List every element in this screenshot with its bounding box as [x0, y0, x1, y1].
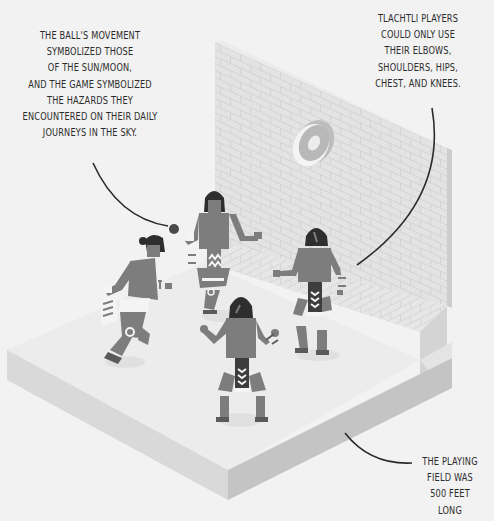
callout-ball-symbolism: THE BALL'S MOVEMENT SYMBOLIZED THOSE OF …	[0, 27, 180, 140]
callout-line-text: SHOULDERS, HIPS,	[347, 59, 488, 75]
callout-line-text: AND THE GAME SYMBOLIZED	[0, 76, 180, 92]
callout-line-text: THEIR ELBOWS,	[347, 42, 488, 58]
callout-line-ball	[93, 163, 168, 226]
callout-line-text: THE HAZARDS THEY	[0, 92, 180, 108]
callout-line-text: FIELD WAS	[407, 469, 493, 485]
callout-field-length: THE PLAYING FIELD WAS 500 FEET LONG	[407, 453, 493, 518]
callout-line-text: 500 FEET	[407, 485, 493, 501]
callout-line-text: LONG	[407, 502, 493, 518]
callout-line-text: JOURNEYS IN THE SKY.	[0, 124, 180, 140]
callout-line-text: THE BALL'S MOVEMENT	[0, 27, 180, 43]
callout-line-text: ENCOUNTERED ON THEIR DAILY	[0, 108, 180, 124]
callout-line-field	[345, 433, 412, 463]
callout-line-text: CHEST, AND KNEES.	[347, 75, 488, 91]
callout-line-text: COULD ONLY USE	[347, 26, 488, 42]
callout-line-text: THE PLAYING	[407, 453, 493, 469]
callout-line-text: OF THE SUN/MOON,	[0, 59, 180, 75]
callout-player-rules: TLACHTLI PLAYERS COULD ONLY USE THEIR EL…	[347, 10, 488, 91]
ball	[169, 224, 179, 234]
callout-line-text: TLACHTLI PLAYERS	[347, 10, 488, 26]
callout-line-text: SYMBOLIZED THOSE	[0, 43, 180, 59]
